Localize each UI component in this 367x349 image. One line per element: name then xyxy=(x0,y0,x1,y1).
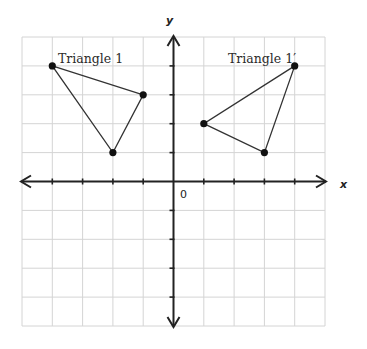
triangle-2: Triangle 1′ xyxy=(200,51,298,156)
triangle-label: Triangle 1 xyxy=(58,51,123,66)
triangle-outline xyxy=(204,66,295,153)
coordinate-plane: x y 0 Triangle 1Triangle 1′ xyxy=(0,0,367,349)
axes xyxy=(21,36,326,327)
triangle-label: Triangle 1′ xyxy=(228,51,296,66)
vertex-point xyxy=(109,149,116,156)
triangle-outline xyxy=(52,66,143,153)
origin-label: 0 xyxy=(180,188,187,201)
vertex-point xyxy=(200,120,207,127)
vertex-point xyxy=(140,91,147,98)
y-axis-label: y xyxy=(166,14,174,27)
triangle-1: Triangle 1 xyxy=(49,51,147,156)
vertex-point xyxy=(49,62,56,69)
vertex-point xyxy=(261,149,268,156)
x-axis-label: x xyxy=(339,178,348,191)
